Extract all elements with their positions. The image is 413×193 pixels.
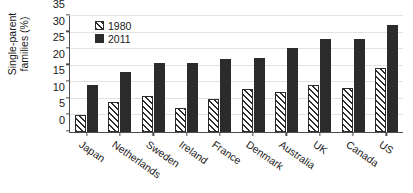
- bar-1980: [275, 92, 286, 132]
- bar-2011: [354, 39, 365, 132]
- legend-label-2011: 2011: [108, 33, 131, 45]
- bar-chart-figure: Single-parent families (%) 0510152025303…: [0, 0, 413, 193]
- bar-group: [336, 16, 369, 132]
- bar-group: [170, 16, 203, 132]
- x-axis-label: Canada: [344, 138, 351, 148]
- chart-legend: 1980 2011: [95, 19, 131, 45]
- bar-1980: [375, 68, 386, 132]
- x-axis-label: France: [210, 138, 217, 148]
- y-axis-tick-label: 30: [53, 15, 70, 27]
- bar-group: [137, 16, 170, 132]
- filled-square-icon: [95, 34, 104, 43]
- bar-2011: [87, 85, 98, 132]
- bar-1980: [242, 89, 253, 132]
- bar-2011: [387, 25, 398, 132]
- bar-1980: [208, 99, 219, 132]
- bar-1980: [308, 85, 319, 132]
- bar-group: [270, 16, 303, 132]
- x-axis-label: Netherlands: [110, 138, 117, 148]
- bar-group: [236, 16, 269, 132]
- legend-item-1980: 1980: [95, 19, 131, 32]
- y-axis-tick-label: 35: [53, 0, 70, 10]
- legend-label-1980: 1980: [108, 20, 131, 32]
- y-axis-tick-label: 15: [53, 64, 70, 76]
- bar-2011: [254, 58, 265, 132]
- bar-1980: [142, 96, 153, 132]
- y-axis-tick-label: 0: [59, 114, 70, 126]
- bar-2011: [187, 63, 198, 132]
- y-axis-title: Single-parent families (%): [6, 0, 30, 104]
- bar-2011: [154, 63, 165, 132]
- bar-1980: [342, 88, 353, 132]
- hatched-square-icon: [95, 21, 104, 30]
- bar-2011: [287, 48, 298, 132]
- x-axis-label: Denmark: [244, 138, 251, 148]
- bar-1980: [108, 102, 119, 132]
- bar-group: [370, 16, 403, 132]
- x-axis-label: Japan: [77, 138, 84, 148]
- x-axis-labels: JapanNetherlandsSwedenIrelandFranceDenma…: [69, 133, 403, 193]
- x-axis-label: Sweden: [144, 138, 151, 148]
- y-axis-tick-label: 5: [59, 97, 70, 109]
- x-axis-label: Ireland: [177, 138, 184, 148]
- x-axis-label: UK: [311, 138, 318, 148]
- x-axis-label: Australia: [277, 138, 284, 148]
- bar-1980: [75, 115, 86, 132]
- y-axis-tick-label: 25: [53, 31, 70, 43]
- bar-2011: [120, 72, 131, 132]
- y-axis-tick-label: 10: [53, 81, 70, 93]
- bar-group: [203, 16, 236, 132]
- y-axis-tick-label: 20: [53, 48, 70, 60]
- x-axis-label: US: [377, 138, 384, 148]
- legend-item-2011: 2011: [95, 32, 131, 45]
- bar-2011: [320, 39, 331, 132]
- bar-group: [303, 16, 336, 132]
- bar-2011: [220, 59, 231, 132]
- bar-1980: [175, 108, 186, 132]
